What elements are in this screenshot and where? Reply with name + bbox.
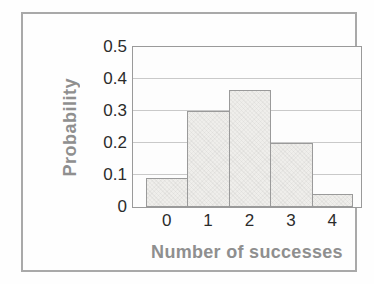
bar-3 (270, 143, 312, 207)
plot-area (132, 46, 362, 208)
x-axis-tick-labels: 01234 (132, 211, 362, 235)
x-tick-label-0: 0 (162, 211, 171, 231)
y-tick-label-0.3: 0.3 (81, 101, 127, 121)
bar-1 (187, 111, 229, 207)
y-tick-label-0: 0 (81, 197, 127, 217)
gridline-0.4 (133, 78, 361, 79)
y-tick-label-0.2: 0.2 (81, 133, 127, 153)
chart-outer-border: Probability 00.10.20.30.40.5 01234 Numbe… (21, 12, 357, 272)
x-axis-title: Number of successes (122, 242, 372, 263)
x-tick-label-1: 1 (203, 211, 212, 231)
y-tick-label-0.4: 0.4 (81, 69, 127, 89)
y-axis-tick-labels: 00.10.20.30.40.5 (81, 46, 127, 208)
chart-figure: Probability 00.10.20.30.40.5 01234 Numbe… (0, 0, 374, 284)
bar-0 (146, 178, 188, 207)
y-tick-label-0.1: 0.1 (81, 165, 127, 185)
bar-2 (229, 90, 271, 207)
x-tick-label-3: 3 (286, 211, 295, 231)
bar-4 (312, 194, 353, 207)
x-tick-label-2: 2 (245, 211, 254, 231)
y-tick-label-0.5: 0.5 (81, 37, 127, 57)
x-tick-label-4: 4 (328, 211, 337, 231)
y-axis-title: Probability (60, 78, 81, 177)
